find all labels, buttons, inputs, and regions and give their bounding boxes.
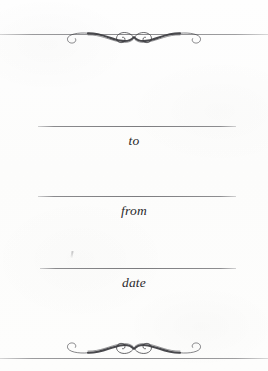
gift-tag-card: to from date bbox=[0, 0, 268, 371]
date-field-line[interactable] bbox=[40, 268, 236, 269]
scan-speck-artifact bbox=[70, 251, 73, 258]
to-field-label: to bbox=[0, 134, 268, 148]
bottom-border-rule bbox=[0, 358, 268, 359]
date-field-label: date bbox=[0, 276, 268, 290]
paper-texture bbox=[0, 0, 268, 371]
from-field-line[interactable] bbox=[38, 196, 236, 197]
flourish-icon bbox=[58, 24, 210, 50]
from-field-label: from bbox=[0, 204, 268, 218]
to-field-line[interactable] bbox=[38, 126, 236, 127]
flourish-ornament-top bbox=[58, 24, 210, 50]
